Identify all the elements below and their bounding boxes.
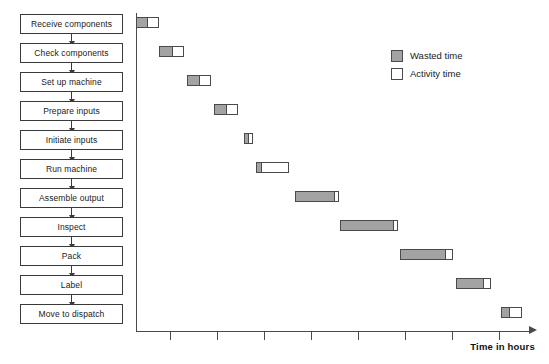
gantt-bar-row[interactable] [340, 220, 399, 231]
bar-segment-activity-time[interactable] [509, 307, 522, 318]
gantt-chart [136, 13, 536, 335]
legend-item-0: Wasted time [391, 48, 462, 63]
flow-node-label: Pack [62, 252, 81, 261]
x-tick-0 [170, 332, 171, 340]
bar-segment-activity-time[interactable] [248, 133, 253, 144]
flow-node-label: Initiate inputs [46, 136, 98, 145]
x-axis-title: Time in hours [470, 341, 535, 352]
gantt-bar-row[interactable] [501, 307, 523, 318]
gantt-bar-row[interactable] [400, 249, 454, 260]
bar-segment-wasted-time[interactable] [400, 249, 446, 260]
flow-node-label: Run machine [46, 165, 97, 174]
flow-arrow-down-icon [71, 150, 72, 158]
bar-segment-activity-time[interactable] [445, 249, 453, 260]
bar-segment-activity-time[interactable] [172, 46, 184, 57]
bar-segment-activity-time[interactable] [334, 191, 339, 202]
flow-node-4[interactable]: Initiate inputs [20, 130, 123, 150]
flow-arrow-down-icon [71, 34, 72, 42]
bar-segment-wasted-time[interactable] [456, 278, 484, 289]
flow-node-label: Inspect [57, 223, 85, 232]
bar-segment-activity-time[interactable] [483, 278, 491, 289]
bar-segment-activity-time[interactable] [147, 17, 159, 28]
flow-arrow-down-icon [71, 179, 72, 187]
gantt-bar-row[interactable] [214, 104, 239, 115]
flow-node-label: Assemble output [39, 194, 104, 203]
bar-segment-activity-time[interactable] [261, 162, 289, 173]
y-axis-line [136, 13, 137, 331]
legend-label: Wasted time [410, 51, 462, 61]
legend-swatch-icon [391, 68, 403, 80]
flow-node-8[interactable]: Pack [20, 246, 123, 266]
gantt-bar-row[interactable] [244, 133, 254, 144]
flow-node-label: Move to dispatch [39, 310, 105, 319]
bar-segment-wasted-time[interactable] [340, 220, 394, 231]
bar-segment-activity-time[interactable] [393, 220, 398, 231]
legend-item-1: Activity time [391, 66, 462, 81]
top-caption [108, 0, 448, 2]
gantt-bar-row[interactable] [187, 75, 212, 86]
flow-node-0[interactable]: Receive components [20, 14, 123, 34]
gantt-bar-row[interactable] [295, 191, 340, 202]
flow-arrow-down-icon [71, 295, 72, 303]
gantt-bar-row[interactable] [456, 278, 492, 289]
gantt-bar-row[interactable] [159, 46, 185, 57]
flow-node-2[interactable]: Set up machine [20, 72, 123, 92]
flow-node-5[interactable]: Run machine [20, 159, 123, 179]
x-axis-line [136, 331, 530, 332]
x-tick-4 [358, 332, 359, 340]
flow-node-3[interactable]: Prepare inputs [20, 101, 123, 121]
gantt-bar-row[interactable] [136, 17, 160, 28]
x-tick-3 [311, 332, 312, 340]
gantt-process-diagram: Receive componentsCheck componentsSet up… [0, 0, 549, 364]
flow-arrow-down-icon [71, 121, 72, 129]
x-tick-1 [217, 332, 218, 340]
flow-node-6[interactable]: Assemble output [20, 188, 123, 208]
flow-node-label: Label [61, 281, 82, 290]
chart-legend: Wasted timeActivity time [391, 48, 462, 84]
flow-node-10[interactable]: Move to dispatch [20, 304, 123, 324]
flow-arrow-down-icon [71, 63, 72, 71]
x-tick-2 [264, 332, 265, 340]
legend-swatch-icon [391, 50, 403, 62]
flow-node-label: Check components [34, 49, 108, 58]
gantt-bar-row[interactable] [256, 162, 290, 173]
flow-node-label: Prepare inputs [43, 107, 100, 116]
x-tick-6 [452, 332, 453, 340]
bar-segment-activity-time[interactable] [199, 75, 211, 86]
x-tick-7 [499, 332, 500, 340]
bar-segment-wasted-time[interactable] [295, 191, 335, 202]
x-tick-5 [405, 332, 406, 340]
flow-node-7[interactable]: Inspect [20, 217, 123, 237]
flow-node-label: Receive components [31, 20, 112, 29]
flow-arrow-down-icon [71, 266, 72, 274]
bar-segment-activity-time[interactable] [226, 104, 238, 115]
flow-arrow-down-icon [71, 92, 72, 100]
legend-label: Activity time [410, 69, 461, 79]
flow-arrow-down-icon [71, 208, 72, 216]
bar-segment-wasted-time[interactable] [159, 46, 173, 57]
flow-node-9[interactable]: Label [20, 275, 123, 295]
flow-node-1[interactable]: Check components [20, 43, 123, 63]
flow-arrow-down-icon [71, 237, 72, 245]
x-axis-arrow-icon [529, 326, 537, 334]
flow-node-label: Set up machine [41, 78, 101, 87]
